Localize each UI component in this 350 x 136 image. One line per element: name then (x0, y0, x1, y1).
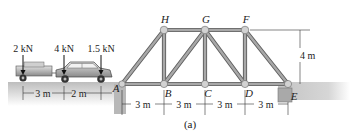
span-label-DE: 3 m (258, 99, 274, 110)
span-label-AB: 3 m (135, 99, 151, 110)
span-label-BC: 3 m (176, 99, 192, 110)
span-label-CD: 3 m (217, 99, 233, 110)
load-spacing-label-1: 3 m (35, 88, 51, 99)
force-label-3: 1.5 kN (87, 43, 114, 54)
joint-G (201, 26, 209, 34)
height-label: 4 m (300, 50, 316, 61)
joint-label-F: F (242, 13, 250, 25)
joint-label-D: D (244, 87, 253, 99)
ground-left (8, 82, 126, 114)
joint-E (284, 80, 291, 87)
force-label-2: 4 kN (54, 43, 74, 54)
truss-members (122, 30, 288, 84)
joint-A (119, 81, 125, 87)
joint-label-H: H (160, 13, 170, 25)
joint-label-G: G (202, 13, 210, 25)
force-label-1: 2 kN (13, 43, 33, 54)
load-spacing-label-2: 2 m (71, 88, 87, 99)
joint-F (241, 26, 249, 34)
joint-label-C: C (204, 87, 212, 99)
joint-label-E: E (290, 90, 298, 102)
truss-diagram: 2 kN 4 kN 1.5 kN 3 m 2 m (0, 0, 350, 136)
joint-H (160, 26, 168, 34)
joint-label-B: B (165, 87, 172, 99)
figure-caption: (a) (184, 118, 197, 131)
joint-label-A: A (112, 82, 120, 94)
